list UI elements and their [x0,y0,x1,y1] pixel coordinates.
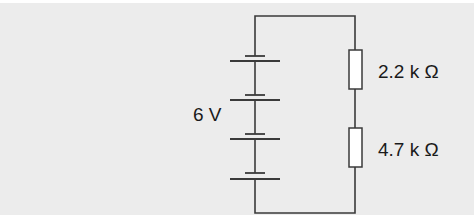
wire-loop [255,16,355,56]
resistor-1-label: 2.2 k Ω [378,62,439,81]
battery-voltage-label: 6 V [193,105,222,124]
resistor-2-symbol [349,128,362,167]
wire-bottom [255,167,355,213]
circuit-diagram [0,0,474,221]
resistor-2-label: 4.7 k Ω [378,140,439,159]
resistor-1-symbol [349,50,362,89]
